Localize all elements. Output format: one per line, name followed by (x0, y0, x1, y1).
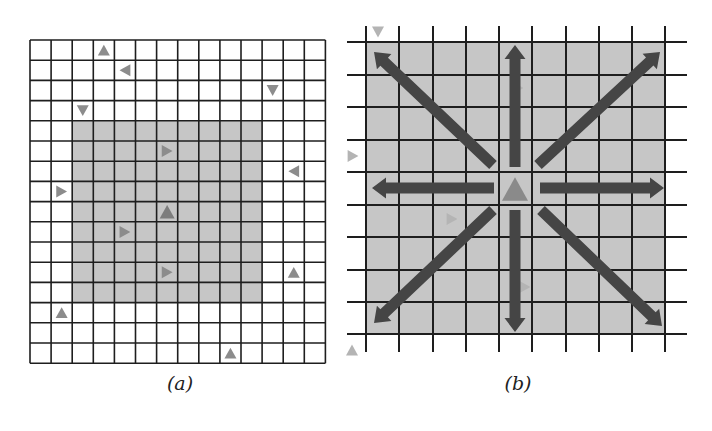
faint-agent-triangle-right-icon (348, 150, 359, 162)
agent-triangle-left-icon (120, 64, 131, 76)
faint-agent-triangle-up-icon (346, 345, 358, 356)
figure-canvas (0, 0, 712, 431)
agent-triangle-down-icon (77, 105, 89, 116)
grid-lines (30, 40, 325, 363)
agent-triangle-up-icon (56, 307, 68, 318)
caption-b: (b) (505, 372, 532, 394)
panel-a-grid-world (30, 40, 325, 363)
agent-triangle-up-icon (288, 267, 300, 278)
agent-triangle-up-icon (224, 348, 236, 359)
caption-a: (a) (167, 372, 193, 394)
faint-agent-triangle-down-icon (372, 27, 384, 38)
panel-b-action-space (346, 26, 687, 355)
agent-triangle-down-icon (267, 85, 279, 96)
agent-triangle-up-icon (98, 45, 110, 56)
agent-triangle-right-icon (56, 186, 67, 198)
agent-triangle-left-icon (288, 165, 299, 177)
